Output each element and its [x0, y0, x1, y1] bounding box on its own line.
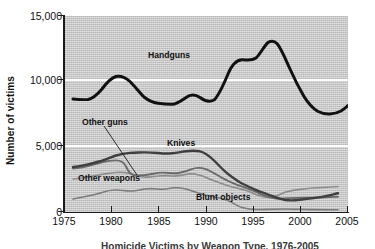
- series-label-knives: Knives: [167, 139, 195, 148]
- x-tick-1990: 1990: [184, 216, 228, 227]
- x-tick-1975: 1975: [42, 216, 86, 227]
- x-tick-1985: 1985: [137, 216, 181, 227]
- series-label-handguns: Handguns: [148, 51, 190, 60]
- series-label-other-weapons: Other weapons: [78, 174, 140, 183]
- x-tick-2005: 2005: [325, 216, 369, 227]
- x-axis-tick-labels: 1975 1980 1985 1990 1995 2000 2005: [0, 0, 375, 249]
- chart-figure: Number of victims 15,000 10,000 5,000 0: [0, 0, 375, 249]
- x-tick-1995: 1995: [231, 216, 275, 227]
- series-label-blunt-objects: Blunt objects: [196, 193, 250, 202]
- x-tick-1980: 1980: [89, 216, 133, 227]
- series-label-other-guns: Other guns: [82, 118, 128, 127]
- x-tick-2000: 2000: [278, 216, 322, 227]
- figure-caption: Homicide Victims by Weapon Type, 1976-20…: [60, 241, 360, 249]
